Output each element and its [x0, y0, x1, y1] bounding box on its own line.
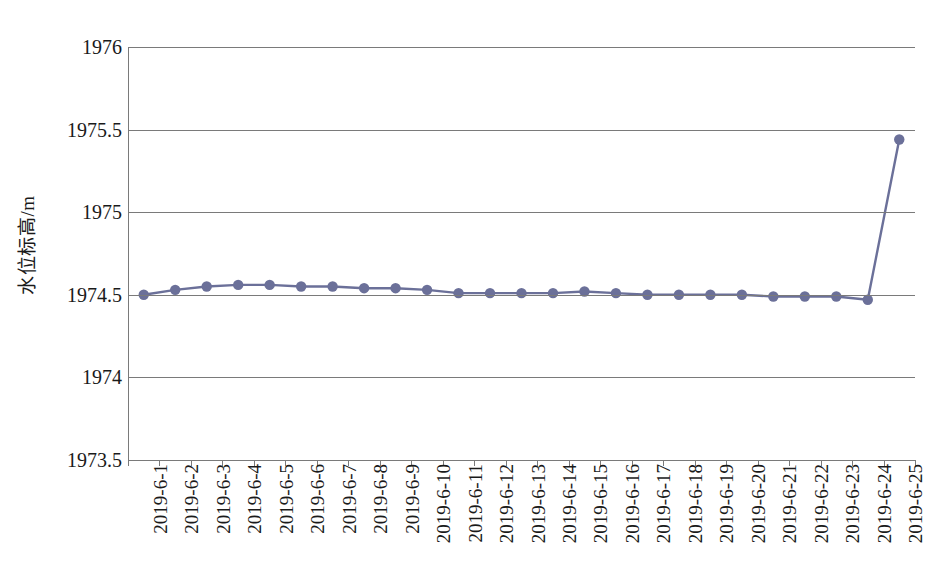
water-level-line-chart: 水位标高/m 1973.519741974.519751975.51976 20…	[0, 0, 929, 583]
x-axis-tick-labels: 2019-6-12019-6-22019-6-32019-6-42019-6-5…	[128, 466, 915, 576]
data-point-marker	[548, 288, 558, 298]
data-point-marker	[485, 288, 495, 298]
x-axis-tick-label: 2019-6-21	[780, 464, 799, 574]
data-point-marker	[422, 285, 432, 295]
gridline	[128, 377, 915, 378]
x-axis-tick-label: 2019-6-17	[654, 464, 673, 574]
x-axis-tick-label: 2019-6-16	[623, 464, 642, 574]
x-axis-tick-label: 2019-6-12	[497, 464, 516, 574]
data-point-marker	[516, 288, 526, 298]
x-axis-tick-label: 2019-6-7	[340, 464, 359, 574]
x-axis-tick-label: 2019-6-18	[686, 464, 705, 574]
data-point-marker	[233, 280, 243, 290]
y-axis-title: 水位标高/m	[12, 165, 42, 325]
data-point-marker	[611, 288, 621, 298]
series-water-level	[128, 47, 915, 460]
data-point-marker	[800, 291, 810, 301]
data-point-marker	[453, 288, 463, 298]
gridline	[128, 295, 915, 296]
x-axis-tick-label: 2019-6-10	[434, 464, 453, 574]
x-axis-tick-label: 2019-6-25	[906, 464, 925, 574]
data-point-marker	[894, 134, 904, 144]
x-axis-tick-label: 2019-6-2	[182, 464, 201, 574]
data-point-marker	[170, 285, 180, 295]
data-point-marker	[390, 283, 400, 293]
data-point-marker	[327, 281, 337, 291]
x-axis-tick-label: 2019-6-6	[308, 464, 327, 574]
x-axis-tick-label: 2019-6-24	[875, 464, 894, 574]
x-axis-tick-label: 2019-6-22	[812, 464, 831, 574]
data-point-marker	[296, 281, 306, 291]
data-point-marker	[863, 295, 873, 305]
y-axis-tick-label: 1975.5	[50, 120, 122, 140]
data-point-marker	[831, 291, 841, 301]
y-axis-tick-label: 1974	[50, 367, 122, 387]
x-axis-tick-label: 2019-6-8	[371, 464, 390, 574]
gridline	[128, 130, 915, 131]
x-axis-tick-label: 2019-6-3	[214, 464, 233, 574]
gridline	[128, 460, 915, 461]
y-axis-tick-labels: 1973.519741974.519751975.51976	[48, 0, 122, 583]
y-axis-tick-label: 1976	[50, 37, 122, 57]
data-point-marker	[768, 291, 778, 301]
x-axis-tick-label: 2019-6-20	[749, 464, 768, 574]
y-axis-tick-label: 1975	[50, 202, 122, 222]
x-axis-tick-label: 2019-6-13	[529, 464, 548, 574]
gridline	[128, 212, 915, 213]
x-axis-tick-label: 2019-6-15	[591, 464, 610, 574]
x-axis-tick-label: 2019-6-4	[245, 464, 264, 574]
y-axis-tick-label: 1973.5	[50, 450, 122, 470]
data-point-marker	[264, 280, 274, 290]
data-point-marker	[202, 281, 212, 291]
x-axis-tick-label: 2019-6-23	[843, 464, 862, 574]
x-axis-tick-label: 2019-6-5	[277, 464, 296, 574]
plot-area	[128, 47, 915, 460]
x-axis-tick-label: 2019-6-11	[466, 464, 485, 574]
x-axis-tick-label: 2019-6-19	[717, 464, 736, 574]
x-axis-tick-label: 2019-6-1	[151, 464, 170, 574]
x-axis-tick-label: 2019-6-9	[403, 464, 422, 574]
y-axis-tick-label: 1974.5	[50, 285, 122, 305]
x-axis-tick-label: 2019-6-14	[560, 464, 579, 574]
data-point-marker	[359, 283, 369, 293]
series-line	[144, 140, 900, 300]
gridline	[128, 47, 915, 48]
